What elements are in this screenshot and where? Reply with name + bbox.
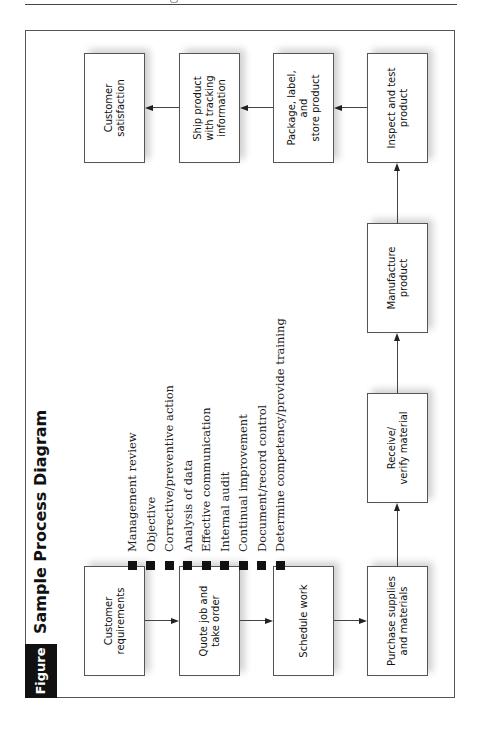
list-item: Continual improvement (234, 318, 253, 570)
connector (240, 620, 265, 621)
figure-title: Sample Process Diagram (27, 410, 55, 634)
arrow-right-icon (394, 333, 400, 341)
step-inspect-test: Inspect and test product (367, 53, 428, 163)
step-customer-satisfaction: Customer satisfaction (84, 53, 145, 163)
step-manufacture: Manufacture product (367, 223, 428, 333)
list-item: Objective (142, 318, 161, 570)
list-item: Determine competency/provide training (271, 318, 290, 570)
step-customer-requirements: Customer requirements (84, 566, 145, 676)
arrow-down-icon (171, 618, 179, 624)
step-receive-verify: Receive/ verify material (367, 393, 428, 503)
arrow-down-icon (359, 618, 367, 624)
bullet-square-icon (128, 561, 137, 570)
list-item: Management review (123, 318, 142, 570)
support-process-list: Management review Objective Corrective/p… (123, 318, 290, 570)
bullet-square-icon (239, 561, 248, 570)
step-quote-job: Quote job and take order (179, 566, 240, 676)
connector (145, 620, 171, 621)
arrow-up-icon (240, 105, 248, 111)
process-diagram: Figure 2.1 Sample Process Diagram Custom… (25, 30, 455, 698)
connector (342, 107, 367, 108)
bullet-square-icon (202, 561, 211, 570)
figure-label: Figure 2.1 (25, 644, 57, 698)
list-item: Corrective/preventive action (160, 318, 179, 570)
bullet-square-icon (276, 561, 285, 570)
step-ship-product: Ship product with tracking information (179, 53, 240, 163)
bullet-square-icon (183, 561, 192, 570)
step-package-label: Package, label, and store product (273, 53, 334, 163)
list-item: Analysis of data (179, 318, 198, 570)
bullet-square-icon (257, 561, 266, 570)
list-item: Effective communication (197, 318, 216, 570)
arrow-down-icon (265, 618, 273, 624)
step-purchase-supplies: Purchase supplies and materials (367, 566, 428, 676)
connector (334, 620, 359, 621)
bullet-square-icon (220, 561, 229, 570)
page-header-rule (25, 4, 457, 5)
arrow-right-icon (394, 163, 400, 171)
connector (397, 171, 398, 224)
bullet-square-icon (146, 561, 155, 570)
connector (153, 107, 179, 108)
step-schedule-work: Schedule work (273, 566, 334, 676)
bullet-square-icon (165, 561, 174, 570)
connector (397, 341, 398, 393)
arrow-right-icon (394, 503, 400, 511)
list-item: Document/record control (253, 318, 272, 570)
arrow-up-icon (334, 105, 342, 111)
connector (248, 107, 273, 108)
connector (397, 511, 398, 566)
list-item: Internal audit (216, 318, 235, 570)
page-header-text-fragment (170, 0, 178, 3)
arrow-up-icon (145, 105, 153, 111)
